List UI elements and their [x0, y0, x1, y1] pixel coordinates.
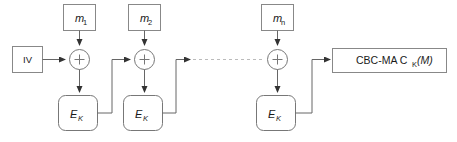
message-block-2-subscript: 2	[148, 18, 152, 27]
diagram-canvas: IV m 1 E K m 2	[0, 0, 457, 142]
cipher-block-1-label: E	[70, 108, 78, 120]
cipher-block-2-label: E	[135, 108, 143, 120]
wire-ciphern-to-output	[296, 60, 331, 114]
message-block-1-subscript: 1	[83, 18, 87, 27]
output-label-suffix: (M)	[417, 54, 433, 66]
cbc-mac-diagram: IV m 1 E K m 2	[0, 0, 457, 142]
wire-cipher2-to-continuation	[163, 60, 191, 114]
cipher-block-n-label: E	[268, 108, 276, 120]
message-block-n-subscript: n	[281, 18, 285, 27]
iv-label: IV	[23, 54, 33, 65]
output-label-prefix: CBC-MA C	[356, 54, 408, 66]
